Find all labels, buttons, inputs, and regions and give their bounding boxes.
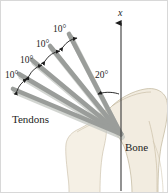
bone-label: Bone <box>125 142 148 153</box>
angle-label-10-third: 10° <box>20 56 33 66</box>
angle-label-10-second: 10° <box>36 40 49 50</box>
tendon-bone-diagram: 10° 10° 10° 10° 20° x Tendons Bone <box>0 0 168 193</box>
diagram-canvas <box>1 1 168 193</box>
tendons-label: Tendons <box>12 114 49 125</box>
angle-label-10-bottom: 10° <box>5 71 18 81</box>
x-axis-label: x <box>118 8 122 18</box>
angle-label-10-top: 10° <box>53 25 66 35</box>
angle-label-20: 20° <box>95 71 108 81</box>
